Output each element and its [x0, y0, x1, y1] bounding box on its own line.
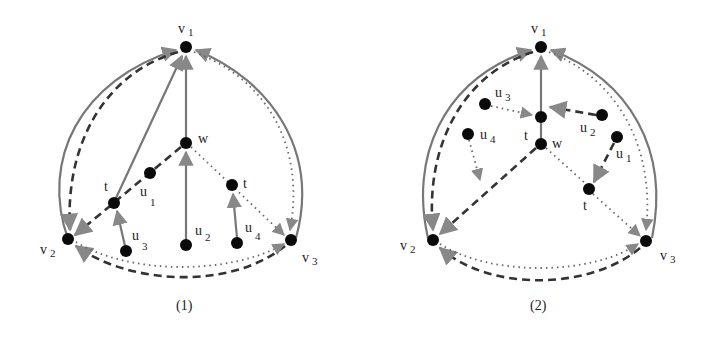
label-u1: u1	[140, 184, 156, 208]
figure-1: v1 w v2 v3 t u1 u3 u2 t u4 (1)	[40, 21, 318, 314]
node-w	[535, 138, 547, 150]
edge-v1-v2-dashed	[70, 52, 178, 230]
label-w: w	[198, 131, 209, 146]
label-w: w	[552, 136, 563, 151]
edge-w-v2-dashed	[440, 148, 536, 234]
node-t-top	[535, 111, 547, 123]
node-t-left	[108, 197, 120, 209]
caption-figure-1: (1)	[176, 298, 193, 314]
label-u3: u3	[132, 228, 148, 252]
edge-u4-t	[233, 194, 237, 238]
edge-v1-v3-dotted	[549, 52, 647, 230]
node-v1	[180, 41, 192, 53]
label-u4: u4	[480, 127, 496, 145]
label-v2: v2	[40, 242, 56, 259]
label-v3: v3	[302, 250, 318, 267]
node-u3	[120, 245, 132, 257]
schnyder-wood-diagrams: v1 w v2 v3 t u1 u3 u2 t u4 (1)	[0, 0, 701, 338]
label-u1: u1	[616, 146, 632, 164]
label-u4: u4	[245, 220, 261, 242]
node-t-right	[226, 179, 238, 191]
edge-u4-dotted	[469, 140, 480, 180]
node-u1	[611, 131, 623, 143]
label-t-left: t	[104, 179, 108, 194]
node-v3	[285, 234, 297, 246]
node-u2	[596, 109, 608, 121]
label-t-top: t	[524, 128, 528, 143]
node-v2	[62, 233, 74, 245]
label-u2: u2	[580, 120, 596, 138]
edge-u3-t	[117, 211, 125, 246]
edge-v3-v1-solid	[196, 50, 302, 238]
label-u3: u3	[495, 85, 511, 103]
node-v2	[427, 234, 439, 246]
edge-v3-v2-dashed	[440, 248, 640, 280]
node-t-bottom	[583, 183, 595, 195]
node-u1	[144, 167, 156, 179]
caption-figure-2: (2)	[530, 298, 547, 314]
node-w	[180, 137, 192, 149]
edge-w-v3-dotted	[191, 147, 284, 235]
edge-w-t-dashed	[75, 147, 181, 235]
node-v3	[640, 235, 652, 247]
node-u3	[479, 98, 491, 110]
label-v2: v2	[400, 238, 416, 255]
edge-u3-t-dotted	[491, 106, 532, 115]
edge-t-v3-dotted	[593, 194, 640, 236]
edge-v3-v1-solid	[551, 50, 656, 238]
figure-2: v1 t w u3 u2 u4 u1 t v2 v3 (2)	[400, 21, 676, 314]
label-t-right: t	[243, 176, 247, 191]
node-u2	[180, 239, 192, 251]
label-v1: v1	[178, 21, 194, 38]
node-u4	[231, 237, 243, 249]
node-v1	[535, 41, 547, 53]
edge-u2-t-dashed	[550, 107, 596, 115]
label-t-bottom: t	[583, 198, 587, 213]
edge-v2-v1-solid	[423, 50, 531, 238]
edge-v2-v1-solid	[59, 50, 176, 239]
edge-w-t-dotted	[546, 148, 586, 184]
label-v3: v3	[660, 248, 676, 265]
edge-v2-v3-dotted	[440, 244, 638, 268]
label-u2: u2	[195, 223, 211, 243]
node-u4	[462, 128, 474, 140]
edge-u1-t-dashed	[594, 143, 614, 182]
edge-v3-v2-dashed	[76, 246, 285, 277]
label-v1: v1	[531, 21, 547, 38]
